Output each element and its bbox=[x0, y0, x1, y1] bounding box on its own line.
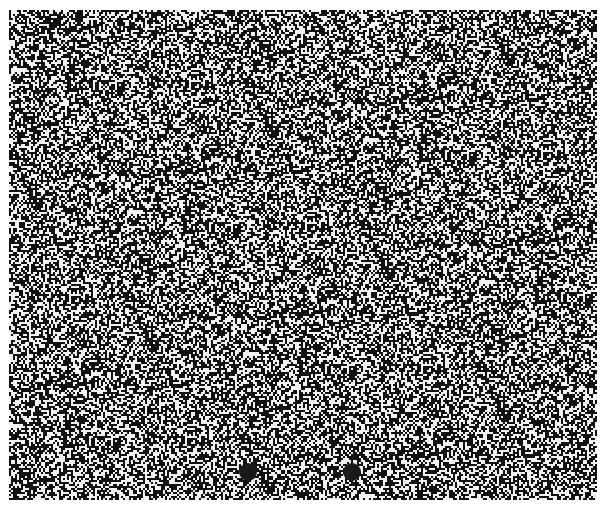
random-dot-stereogram bbox=[9, 10, 597, 500]
fixation-dot-right bbox=[343, 463, 361, 481]
fixation-dot-left bbox=[239, 463, 257, 481]
